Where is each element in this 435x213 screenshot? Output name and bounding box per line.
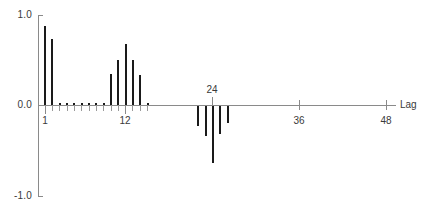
bar-lag-3 bbox=[59, 103, 61, 105]
bar-lag-26 bbox=[227, 106, 229, 123]
bar-lag-1 bbox=[44, 26, 46, 105]
x-tick-minor-15 bbox=[147, 105, 148, 111]
x-tick-minor-5 bbox=[74, 105, 75, 111]
bar-lag-5 bbox=[73, 103, 75, 105]
x-tick-minor-14 bbox=[140, 105, 141, 111]
x-tick-minor-3 bbox=[59, 105, 60, 111]
x-tick-minor-9 bbox=[103, 105, 104, 111]
y-axis-top-cap bbox=[38, 15, 43, 16]
annotation-lag-24: 24 bbox=[203, 84, 221, 95]
bar-lag-9 bbox=[103, 103, 105, 105]
bar-lag-24 bbox=[212, 106, 214, 163]
x-tick-minor-13 bbox=[132, 105, 133, 111]
bar-lag-23 bbox=[205, 106, 207, 136]
x-tick-minor-8 bbox=[96, 105, 97, 111]
bar-lag-10 bbox=[110, 74, 112, 105]
bar-lag-15 bbox=[147, 103, 149, 105]
x-tick-label-12: 12 bbox=[116, 115, 134, 126]
y-axis-line bbox=[38, 15, 39, 197]
bar-lag-11 bbox=[117, 60, 119, 105]
x-tick-minor-4 bbox=[67, 105, 68, 111]
x-tick-24 bbox=[212, 97, 213, 106]
y-tick-label-zero: 0.0 bbox=[2, 99, 32, 110]
bar-lag-7 bbox=[88, 103, 90, 105]
x-tick-36 bbox=[299, 100, 300, 110]
x-axis-title: Lag bbox=[400, 99, 417, 110]
x-tick-12 bbox=[125, 105, 126, 114]
bar-lag-22 bbox=[197, 106, 199, 126]
x-axis-line bbox=[38, 105, 396, 106]
x-tick-1 bbox=[45, 105, 46, 114]
bar-lag-25 bbox=[219, 106, 221, 134]
y-tick-label-lower: -1.0 bbox=[0, 190, 32, 201]
y-axis-bottom-cap bbox=[38, 196, 43, 197]
x-tick-48 bbox=[386, 100, 387, 110]
bar-lag-14 bbox=[139, 75, 141, 105]
bar-lag-2 bbox=[51, 39, 53, 105]
bar-lag-8 bbox=[95, 103, 97, 105]
bar-lag-13 bbox=[132, 60, 134, 105]
bar-lag-12 bbox=[125, 44, 127, 105]
y-tick-label-upper: 1.0 bbox=[2, 9, 32, 20]
x-tick-minor-10 bbox=[111, 105, 112, 111]
bar-lag-4 bbox=[66, 103, 68, 105]
acf-chart: 1.0 0.0 -1.0 1 12 24 36 48 Lag bbox=[0, 0, 435, 213]
x-tick-label-1: 1 bbox=[36, 115, 54, 126]
x-tick-minor-6 bbox=[81, 105, 82, 111]
x-tick-minor-11 bbox=[118, 105, 119, 111]
x-tick-minor-2 bbox=[52, 105, 53, 111]
bar-lag-6 bbox=[81, 103, 83, 105]
x-tick-label-36: 36 bbox=[290, 115, 308, 126]
x-tick-label-48: 48 bbox=[377, 115, 395, 126]
x-tick-minor-7 bbox=[89, 105, 90, 111]
